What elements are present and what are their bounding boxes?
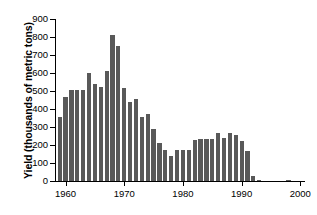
bar-1976 [157, 143, 161, 181]
x-tick-label-1970: 1970 [104, 188, 144, 199]
y-tick-label-900: 900 [18, 13, 48, 24]
bar-1988 [228, 133, 232, 181]
y-tick-label-300: 300 [18, 121, 48, 132]
y-tick-label-100: 100 [18, 157, 48, 168]
bar-1968 [110, 35, 114, 181]
x-tick-label-1980: 1980 [163, 188, 203, 199]
bar-1967 [105, 71, 109, 181]
bar-1978 [169, 156, 173, 181]
x-tick-label-1990: 1990 [222, 188, 262, 199]
bar-1998 [286, 180, 290, 181]
bar-1966 [99, 87, 103, 181]
bar-1977 [163, 150, 167, 181]
bar-1969 [116, 46, 120, 181]
bar-1987 [222, 138, 226, 181]
bar-1960 [63, 97, 67, 181]
y-tick-label-0: 0 [18, 175, 48, 186]
bar-1974 [146, 114, 150, 181]
bar-1959 [58, 117, 62, 181]
bar-1964 [87, 73, 91, 181]
bar-1981 [187, 150, 191, 181]
bar-1992 [251, 176, 255, 181]
bar-1983 [198, 139, 202, 181]
x-tick-1970 [124, 181, 125, 186]
x-tick-label-2000: 2000 [280, 188, 317, 199]
yield-bar-chart: Yield (thousands of metric tons) 0100200… [0, 0, 317, 215]
y-tick-0 [50, 181, 55, 182]
bar-1986 [216, 133, 220, 181]
bar-1961 [69, 90, 73, 181]
y-tick-label-200: 200 [18, 139, 48, 150]
bar-1990 [240, 141, 244, 181]
y-tick-label-800: 800 [18, 31, 48, 42]
x-tick-1960 [66, 181, 67, 186]
bar-1985 [210, 139, 214, 181]
y-tick-label-500: 500 [18, 85, 48, 96]
bar-1982 [193, 140, 197, 181]
x-axis-line [55, 181, 305, 182]
bar-1979 [175, 150, 179, 181]
bar-series [55, 19, 305, 181]
bar-1984 [204, 139, 208, 181]
bar-1991 [245, 151, 249, 181]
bar-1993 [257, 180, 261, 181]
bar-1970 [122, 88, 126, 181]
x-tick-1990 [242, 181, 243, 186]
x-tick-2000 [300, 181, 301, 186]
y-tick-label-400: 400 [18, 103, 48, 114]
x-tick-label-1960: 1960 [46, 188, 86, 199]
bar-1972 [134, 99, 138, 181]
bar-1965 [93, 84, 97, 181]
y-tick-label-700: 700 [18, 49, 48, 60]
bar-1980 [181, 150, 185, 181]
bar-1963 [81, 90, 85, 181]
bar-1962 [75, 90, 79, 181]
bar-1975 [151, 129, 155, 181]
bar-1971 [128, 102, 132, 181]
x-tick-1980 [183, 181, 184, 186]
y-tick-label-600: 600 [18, 67, 48, 78]
bar-1973 [140, 117, 144, 181]
bar-1989 [234, 135, 238, 181]
